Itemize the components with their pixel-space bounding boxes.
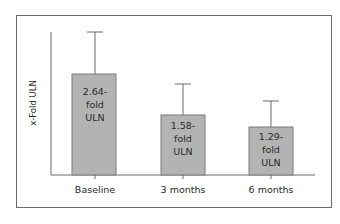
bar-value-label: ULN	[85, 112, 104, 123]
y-axis-label: x-Fold ULN	[28, 80, 38, 126]
x-tick-label: Baseline	[75, 184, 115, 195]
bar-value-label: ULN	[261, 157, 280, 168]
bar-baseline: 2.64- fold ULN Baseline	[72, 32, 116, 195]
bar-value-label: 1.29-	[259, 131, 284, 142]
bar-value-label: fold	[174, 133, 192, 144]
bar-value-label: fold	[262, 144, 280, 155]
bar-chart: x-Fold ULN 2.64- fold ULN Baseline 1.58-…	[0, 0, 340, 224]
bar-3-months: 1.58- fold ULN 3 months	[161, 84, 206, 195]
bar-value-label: fold	[86, 99, 104, 110]
bar-6-months: 1.29- fold ULN 6 months	[249, 101, 294, 195]
x-tick-label: 3 months	[161, 184, 206, 195]
x-tick-label: 6 months	[249, 184, 294, 195]
bar-value-label: 1.58-	[171, 120, 196, 131]
bar-value-label: 2.64-	[83, 86, 108, 97]
bar-value-label: ULN	[173, 146, 192, 157]
